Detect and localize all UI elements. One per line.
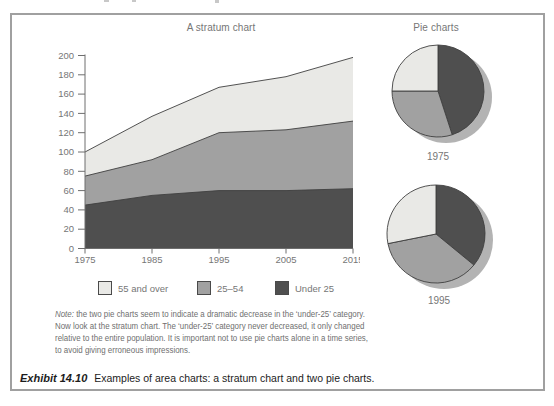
y-tick-label: 20 (63, 223, 74, 234)
page: A stratum chart Pie charts 0204060801001… (0, 0, 554, 406)
pie-charts-title: Pie charts (376, 22, 496, 33)
stratum-areas (85, 57, 353, 248)
y-tick-label: 120 (58, 127, 74, 138)
y-tick-label: 180 (58, 69, 74, 80)
pie-chart-1995 (383, 182, 503, 298)
exhibit-caption-text: Examples of area charts: a stratum chart… (94, 372, 374, 384)
x-tick-label: 2015 (342, 254, 360, 265)
stratum-chart: 0204060801001201401601802001975198519952… (40, 52, 360, 267)
exhibit-box: A stratum chart Pie charts 0204060801001… (10, 13, 545, 391)
cropped-text-fragment (104, 0, 109, 2)
pie-slice-2 (392, 45, 438, 91)
cropped-text-fragment (215, 0, 219, 3)
note-label: Note: (55, 309, 74, 319)
note-line: to avoid giving erroneous impressions. (55, 344, 407, 356)
pie-label-1975: 1975 (386, 151, 490, 162)
x-tick-label: 1975 (74, 254, 95, 265)
x-tick-label: 1995 (208, 254, 229, 265)
x-tick-label: 2005 (275, 254, 296, 265)
note-line: relative to the entire population. It is… (55, 332, 407, 344)
note-text: Note: the two pie charts seem to indicat… (55, 308, 407, 356)
pie-slice-2 (387, 185, 436, 244)
y-tick-label: 0 (69, 243, 74, 254)
legend-label: 25–54 (217, 283, 243, 294)
cropped-text-fragment (132, 0, 136, 2)
note-line: Note: the two pie charts seem to indicat… (55, 308, 407, 320)
stratum-chart-title: A stratum chart (121, 22, 321, 33)
legend-label: Under 25 (295, 283, 334, 294)
exhibit-caption-label: Exhibit 14.10 (20, 372, 87, 384)
y-tick-label: 60 (63, 185, 74, 196)
x-tick-label: 1985 (141, 254, 162, 265)
y-tick-label: 80 (63, 166, 74, 177)
exhibit-caption: Exhibit 14.10Examples of area charts: a … (20, 368, 540, 386)
legend-item-under-25: Under 25 (275, 281, 334, 295)
note-line: Now look at the stratum chart. The ‘unde… (55, 320, 407, 332)
y-tick-label: 140 (58, 108, 74, 119)
y-tick-label: 160 (58, 88, 74, 99)
legend-swatch-medium (197, 281, 211, 295)
legend-swatch-light (98, 281, 112, 295)
pie-label-1995: 1995 (383, 295, 495, 306)
y-tick-label: 40 (63, 204, 74, 215)
legend-item-25-54: 25–54 (197, 281, 243, 295)
pie-chart-1975 (386, 41, 502, 153)
y-tick-label: 200 (58, 52, 74, 61)
legend-label: 55 and over (118, 283, 168, 294)
legend-item-55-and-over: 55 and over (98, 281, 168, 295)
legend-swatch-dark (275, 281, 289, 295)
y-tick-label: 100 (58, 146, 74, 157)
